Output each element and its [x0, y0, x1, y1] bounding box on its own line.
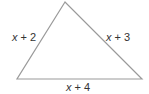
side-label-right-constant: 3	[124, 31, 130, 43]
side-label-bottom: x + 4	[66, 82, 90, 93]
side-label-left-variable: x	[12, 31, 18, 43]
side-label-right: x + 3	[106, 32, 130, 43]
side-label-bottom-constant: 4	[84, 81, 90, 93]
side-label-bottom-variable: x	[66, 81, 72, 93]
side-label-bottom-operator: +	[75, 81, 81, 93]
side-label-left: x + 2	[12, 32, 36, 43]
triangle-shape	[0, 0, 149, 94]
side-label-right-variable: x	[106, 31, 112, 43]
side-label-left-constant: 2	[30, 31, 36, 43]
triangle-diagram: x + 2 x + 3 x + 4	[0, 0, 149, 94]
side-label-right-operator: +	[115, 31, 121, 43]
side-label-left-operator: +	[21, 31, 27, 43]
